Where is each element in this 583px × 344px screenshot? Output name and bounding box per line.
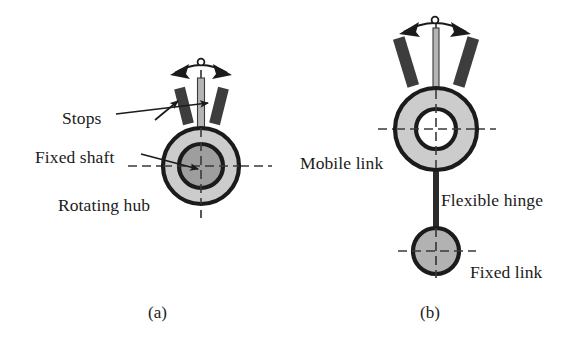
figure-svg: Stops Fixed shaft Rotating hub (a) <box>0 0 583 344</box>
label-fixed-link: Fixed link <box>470 262 543 282</box>
label-rotating-hub: Rotating hub <box>58 195 150 215</box>
caption-panel-b: (b) <box>420 303 440 322</box>
label-fixed-shaft: Fixed shaft <box>35 147 114 167</box>
label-flexible-hinge: Flexible hinge <box>441 190 543 210</box>
panel-b-swing-arrow-pivot-marker <box>432 17 439 24</box>
label-stops: Stops <box>62 108 101 128</box>
label-mobile-link: Mobile link <box>300 153 383 173</box>
figure-background <box>0 0 583 344</box>
panel-b-mobile-link-stem <box>433 28 439 92</box>
caption-panel-a: (a) <box>148 303 167 322</box>
technical-figure: Stops Fixed shaft Rotating hub (a) <box>0 0 583 344</box>
panel-b-mobile-link-bore <box>416 109 456 149</box>
panel-a-swing-arrow-pivot-marker <box>198 59 205 66</box>
